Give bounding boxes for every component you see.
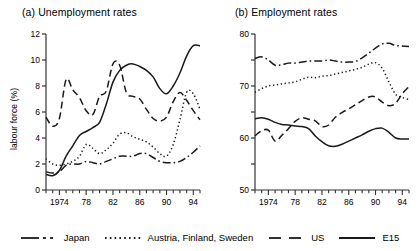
svg-b-xtick-86: 86 [344,197,354,207]
panel-a-plot: 02468101219747882869094 [0,0,210,218]
svg-a-xtick-1974: 1974 [50,197,69,207]
svg-b-xtick-82: 82 [317,197,327,207]
legend-item-e15: E15 [338,232,399,243]
svg-a-ytick-4: 4 [35,133,40,143]
panel-b-title: (b) Employment rates [235,6,337,18]
legend-label-e15: E15 [382,232,399,243]
svg-a-ytick-10: 10 [31,55,41,65]
svg-a-ytick-0: 0 [35,185,40,195]
svg-a-xtick-82: 82 [108,197,118,207]
legend-item-us: US [267,232,324,243]
legend-swatch-e15 [338,233,378,243]
panel-unemployment-rates: (a) Unemployment rates labour force (%) … [0,0,210,218]
svg-a-series-us [46,61,200,126]
svg-a-series-austria-finland-sweden [46,90,200,165]
svg-a-xtick-90: 90 [162,197,172,207]
svg-a-ytick-2: 2 [35,159,40,169]
legend-label-austria-finland-sweden: Austria, Finland, Sweden [148,232,254,243]
svg-a-ytick-12: 12 [31,29,41,39]
panel-a-y-axis-label: labour force (%) [9,88,19,150]
legend-swatch-austria-finland-sweden [104,233,144,243]
svg-b-xtick-90: 90 [371,197,381,207]
panel-employment-rates: (b) Employment rates population (%) (15-… [209,0,419,218]
legend-label-us: US [311,232,324,243]
svg-b-ytick-70: 70 [240,81,250,91]
svg-b-ytick-60: 60 [240,133,250,143]
svg-a-ytick-8: 8 [35,81,40,91]
figure-legend: Japan Austria, Finland, Sweden US E15 [0,224,419,251]
svg-a-series-japan [46,146,200,173]
svg-b-xtick-1974: 1974 [259,197,278,207]
legend-label-japan: Japan [64,232,90,243]
legend-swatch-japan [20,233,60,243]
legend-item-austria-finland-sweden: Austria, Finland, Sweden [104,232,254,243]
svg-b-series-japan [255,43,409,65]
panel-a-title: (a) Unemployment rates [22,6,137,18]
svg-a-xtick-78: 78 [81,197,91,207]
svg-a-xtick-86: 86 [135,197,145,207]
svg-b-xtick-94: 94 [398,197,408,207]
legend-item-japan: Japan [20,232,90,243]
svg-b-series-e15 [255,118,409,147]
svg-b-series-us [255,87,409,142]
svg-b-series-austria-finland-sweden [255,62,409,99]
svg-b-xtick-78: 78 [290,197,300,207]
figure-unemployment-employment-rates: (a) Unemployment rates labour force (%) … [0,0,419,251]
svg-a-ytick-6: 6 [35,107,40,117]
legend-swatch-us [267,233,307,243]
svg-b-ytick-80: 80 [240,29,250,39]
svg-b-ytick-50: 50 [240,185,250,195]
panel-b-plot: 5060708019747882869094 [209,0,419,218]
svg-a-xtick-94: 94 [189,197,199,207]
